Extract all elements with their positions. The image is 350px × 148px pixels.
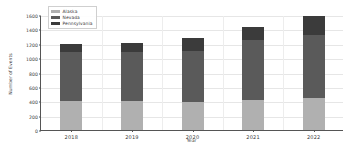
x-tick-label-2018: 2018 (65, 134, 79, 140)
bar-2021[interactable] (242, 27, 264, 131)
legend-item-nevada[interactable]: Nevada (51, 15, 93, 20)
x-tick-label-2021: 2021 (246, 134, 260, 140)
vertical-gridline (283, 16, 284, 130)
legend-item-pennsylvania[interactable]: Pennsylvania (51, 21, 93, 26)
bar-segment-alaska-2019[interactable] (121, 101, 143, 130)
y-tick-mark (39, 73, 41, 74)
y-tick-mark (39, 30, 41, 31)
bar-segment-nevada-2020[interactable] (182, 51, 204, 102)
vertical-gridline (102, 16, 103, 130)
x-tick-mark (132, 130, 133, 132)
bar-segment-alaska-2021[interactable] (242, 100, 264, 130)
legend-item-alaska[interactable]: Alaska (51, 9, 93, 14)
bar-2018[interactable] (60, 44, 82, 130)
y-tick-mark (39, 102, 41, 103)
y-tick-label: 1200 (26, 42, 38, 47)
legend-label-nevada: Nevada (63, 15, 80, 20)
y-tick-mark (39, 116, 41, 117)
bar-segment-pennsylvania-2022[interactable] (303, 16, 325, 35)
y-axis-title: Number of Events (8, 53, 13, 94)
y-tick-mark (39, 16, 41, 17)
y-tick-label: 600 (29, 85, 38, 90)
legend-label-alaska: Alaska (63, 9, 78, 14)
bar-2020[interactable] (182, 38, 204, 130)
y-tick-mark (39, 87, 41, 88)
x-tick-mark (253, 130, 254, 132)
y-tick-mark (39, 131, 41, 132)
vertical-gridline (162, 16, 163, 130)
legend-label-pennsylvania: Pennsylvania (63, 21, 93, 26)
x-tick-label-2020: 2020 (186, 134, 200, 140)
y-tick-label: 1000 (26, 57, 38, 62)
stacked-bar-chart: Number of Events Year 020040060080010001… (0, 0, 350, 148)
x-tick-mark (193, 130, 194, 132)
y-tick-label: 0 (35, 129, 38, 134)
y-tick-label: 800 (29, 71, 38, 76)
bar-segment-alaska-2020[interactable] (182, 102, 204, 130)
bar-segment-alaska-2018[interactable] (60, 101, 82, 130)
x-tick-mark (314, 130, 315, 132)
y-tick-mark (39, 59, 41, 60)
bar-segment-pennsylvania-2018[interactable] (60, 44, 82, 52)
y-tick-label: 200 (29, 114, 38, 119)
bar-segment-pennsylvania-2019[interactable] (121, 43, 143, 52)
legend-swatch-alaska (51, 10, 60, 13)
legend-swatch-pennsylvania (51, 22, 60, 25)
plot-area: 02004006008001000120014001600 2018201920… (40, 16, 343, 131)
vertical-gridline (223, 16, 224, 130)
y-tick-label: 1400 (26, 28, 38, 33)
x-tick-label-2019: 2019 (125, 134, 139, 140)
x-tick-mark (71, 130, 72, 132)
bar-segment-nevada-2022[interactable] (303, 35, 325, 98)
bar-2019[interactable] (121, 43, 143, 130)
legend-swatch-nevada (51, 16, 60, 19)
y-tick-label: 400 (29, 100, 38, 105)
y-tick-label: 1600 (26, 14, 38, 19)
bar-segment-pennsylvania-2021[interactable] (242, 27, 264, 41)
y-tick-mark (39, 44, 41, 45)
legend: Alaska Nevada Pennsylvania (48, 6, 97, 29)
bar-segment-nevada-2019[interactable] (121, 52, 143, 101)
bar-segment-pennsylvania-2020[interactable] (182, 38, 204, 51)
gridline (41, 30, 343, 31)
x-tick-label-2022: 2022 (307, 134, 321, 140)
bar-segment-nevada-2021[interactable] (242, 40, 264, 100)
bar-2022[interactable] (303, 16, 325, 130)
bar-segment-nevada-2018[interactable] (60, 52, 82, 101)
bar-segment-alaska-2022[interactable] (303, 98, 325, 130)
